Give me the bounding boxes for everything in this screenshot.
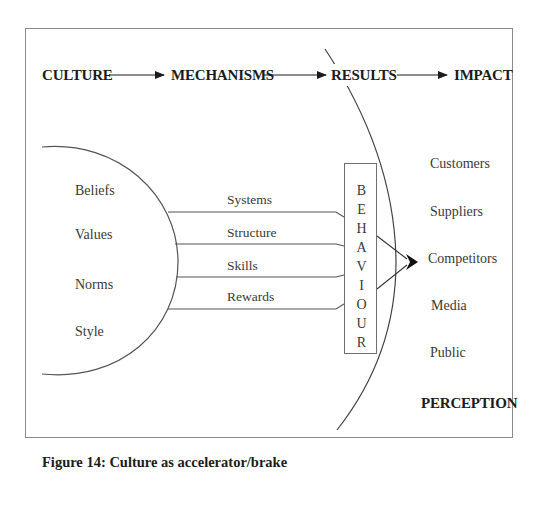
mechanism-structure: Structure: [227, 226, 277, 240]
behaviour-letter: V: [345, 260, 378, 274]
stage-mechanisms: MECHANISMS: [171, 68, 274, 83]
impact-item-public: Public: [430, 346, 466, 360]
culture-item-style: Style: [75, 325, 104, 339]
impact-item-media: Media: [431, 299, 467, 313]
behaviour-letter: H: [345, 222, 378, 236]
mechanism-skills: Skills: [227, 259, 258, 273]
stage-results: RESULTS: [331, 68, 397, 83]
behaviour-letter: I: [345, 279, 378, 293]
impact-item-suppliers: Suppliers: [430, 205, 483, 219]
stage-culture: CULTURE: [42, 68, 113, 83]
channel-line-3: [176, 275, 344, 277]
behaviour-letter: U: [345, 317, 378, 331]
impact-arrowhead: [406, 254, 418, 270]
stage-impact: IMPACT: [454, 68, 513, 83]
perception-label: PERCEPTION: [421, 396, 517, 411]
impact-item-customers: Customers: [430, 157, 490, 171]
culture-item-norms: Norms: [75, 278, 113, 292]
figure-caption: Figure 14: Culture as accelerator/brake: [42, 455, 287, 470]
impact-item-competitors: Competitors: [428, 252, 497, 266]
channel-line-2: [175, 244, 344, 246]
behaviour-letter: B: [345, 184, 378, 198]
behaviour-letter: O: [345, 298, 378, 312]
converge-line-bottom: [377, 265, 407, 289]
culture-semicircle: [42, 146, 178, 374]
channel-line-4: [168, 304, 344, 309]
behaviour-letter: E: [345, 203, 378, 217]
behaviour-box: B E H A V I O U R: [344, 163, 377, 354]
behaviour-letter: A: [345, 241, 378, 255]
channel-line-1: [168, 212, 344, 217]
converge-line-top: [377, 236, 407, 259]
culture-item-beliefs: Beliefs: [75, 184, 115, 198]
mechanism-systems: Systems: [227, 193, 272, 207]
mechanism-rewards: Rewards: [227, 290, 274, 304]
behaviour-letter: R: [345, 336, 378, 350]
culture-item-values: Values: [75, 228, 112, 242]
